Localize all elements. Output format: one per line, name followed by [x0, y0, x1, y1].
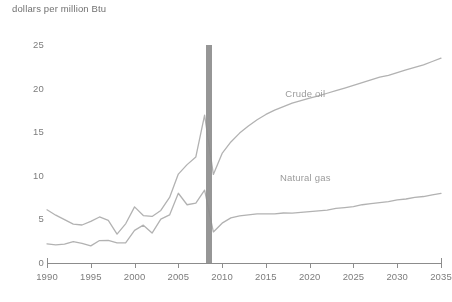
chart-axis-title: dollars per million Btu: [12, 3, 106, 14]
x-axis-tick-mark: [91, 263, 92, 268]
x-axis-tick-label: 1995: [80, 271, 102, 282]
x-axis-tick-label: 1990: [36, 271, 58, 282]
y-axis-tick-label: 20: [16, 83, 44, 94]
x-axis-tick-mark: [135, 263, 136, 268]
x-axis-tick-label: 2020: [299, 271, 321, 282]
y-axis-tick-label: 5: [16, 213, 44, 224]
series-svg: [47, 45, 441, 263]
x-axis-tick-label: 2035: [430, 271, 452, 282]
x-axis-tick-mark: [222, 263, 223, 268]
x-axis-tick-mark: [310, 263, 311, 268]
x-axis-tick-label: 2030: [386, 271, 408, 282]
x-axis-tick-label: 2025: [343, 271, 365, 282]
series-annotation-crude-oil: Crude oil: [285, 88, 325, 99]
x-axis-tick-label: 2005: [168, 271, 190, 282]
series-line-natural-gas: [47, 190, 441, 246]
y-axis-tick-label: 15: [16, 126, 44, 137]
y-axis-label-group: 0510152025: [14, 45, 44, 263]
x-axis-tick-label: 2010: [211, 271, 233, 282]
x-axis-tick-label: 2000: [124, 271, 146, 282]
series-line-crude-oil: [47, 58, 441, 234]
x-axis-tick-mark: [47, 263, 48, 268]
x-axis-tick-mark: [266, 263, 267, 268]
x-axis-tick-mark: [353, 263, 354, 268]
y-axis-tick-label: 25: [16, 39, 44, 50]
x-axis-tick-label: 2015: [255, 271, 277, 282]
x-axis-tick-mark: [441, 263, 442, 268]
series-annotation-natural-gas: Natural gas: [280, 172, 331, 183]
history-projection-divider: [206, 45, 212, 263]
x-axis-tick-mark: [397, 263, 398, 268]
x-axis-tick-mark: [178, 263, 179, 268]
x-axis-line: [47, 263, 441, 264]
y-axis-tick-label: 10: [16, 170, 44, 181]
plot-area: [47, 45, 441, 263]
y-axis-tick-label: 0: [16, 257, 44, 268]
